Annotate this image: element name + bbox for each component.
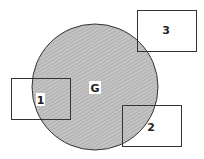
label-box-2: 2 bbox=[147, 121, 155, 134]
label-box-3: 3 bbox=[162, 24, 170, 37]
diagram-canvas: G 1 2 3 bbox=[0, 0, 204, 159]
label-g: G bbox=[90, 82, 99, 95]
label-box-1: 1 bbox=[37, 94, 45, 107]
